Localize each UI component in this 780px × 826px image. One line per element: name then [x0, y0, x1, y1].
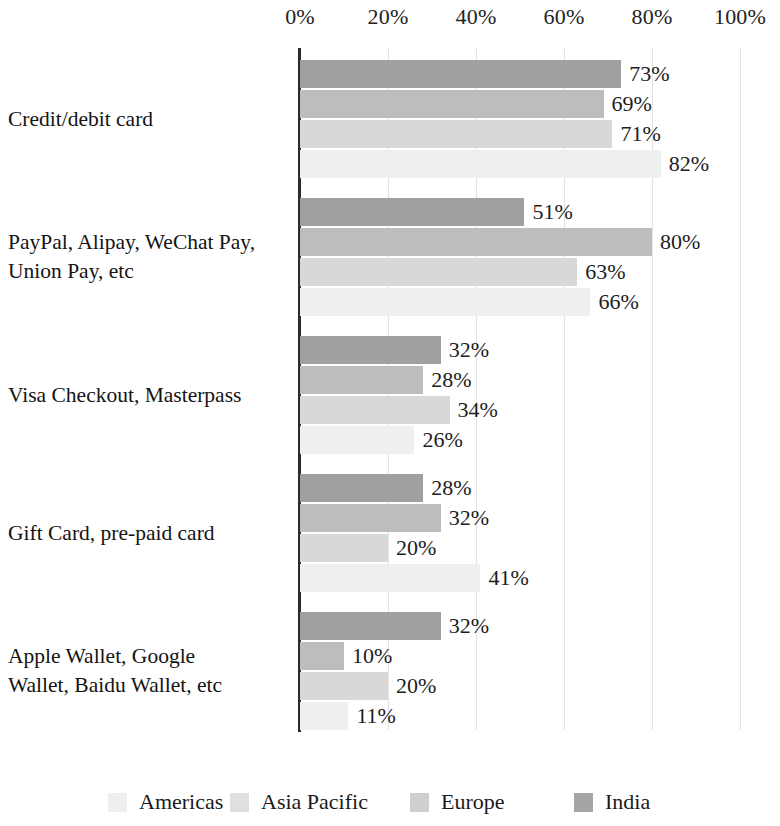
bar-asia-pacific-2	[300, 396, 450, 424]
legend-swatch-icon	[230, 793, 249, 812]
bar-americas-1	[300, 288, 590, 316]
category-label-line: Credit/debit card	[8, 105, 290, 134]
x-tick-100: 100%	[714, 4, 766, 30]
bar-value-label: 28%	[423, 474, 471, 502]
bar-europe-0	[300, 90, 604, 118]
category-label-line: Visa Checkout, Masterpass	[8, 381, 290, 410]
legend-item-americas[interactable]: Americas	[108, 786, 223, 818]
bar-value-label: 10%	[344, 642, 392, 670]
x-tick-80: 80%	[632, 4, 673, 30]
x-tick-0: 0%	[285, 4, 315, 30]
bar-value-label: 66%	[590, 288, 638, 316]
category-label-4: Apple Wallet, GoogleWallet, Baidu Wallet…	[8, 642, 290, 700]
legend-item-europe[interactable]: Europe	[410, 786, 505, 818]
gridline-100	[740, 48, 741, 730]
bar-india-4	[300, 612, 441, 640]
category-label-line: Apple Wallet, Google	[8, 642, 290, 671]
category-label-0: Credit/debit card	[8, 105, 290, 134]
bar-europe-3	[300, 504, 441, 532]
chart-legend: AmericasAsia PacificEuropeIndia	[0, 786, 780, 826]
bar-value-label: 82%	[661, 150, 709, 178]
bar-value-label: 63%	[577, 258, 625, 286]
category-label-line: PayPal, Alipay, WeChat Pay,	[8, 228, 290, 257]
legend-label: Americas	[139, 787, 223, 817]
bar-asia-pacific-4	[300, 672, 388, 700]
bar-value-label: 73%	[621, 60, 669, 88]
grouped-bar-chart: 0%20%40%60%80%100% Credit/debit cardPayP…	[0, 0, 780, 826]
bar-asia-pacific-3	[300, 534, 388, 562]
bar-value-label: 51%	[524, 198, 572, 226]
bar-value-label: 71%	[612, 120, 660, 148]
legend-swatch-icon	[410, 793, 429, 812]
bar-value-label: 20%	[388, 672, 436, 700]
category-label-2: Visa Checkout, Masterpass	[8, 381, 290, 410]
legend-swatch-icon	[108, 793, 127, 812]
legend-swatch-icon	[574, 793, 593, 812]
x-tick-40: 40%	[456, 4, 497, 30]
bar-americas-2	[300, 426, 414, 454]
bar-value-label: 32%	[441, 612, 489, 640]
bar-americas-3	[300, 564, 480, 592]
bar-asia-pacific-1	[300, 258, 577, 286]
bar-europe-4	[300, 642, 344, 670]
legend-label: Europe	[441, 787, 505, 817]
bar-india-2	[300, 336, 441, 364]
category-label-line: Gift Card, pre-paid card	[8, 519, 290, 548]
bar-india-3	[300, 474, 423, 502]
legend-label: India	[605, 787, 650, 817]
bar-india-0	[300, 60, 621, 88]
bar-value-label: 26%	[414, 426, 462, 454]
bar-value-label: 20%	[388, 534, 436, 562]
bar-europe-2	[300, 366, 423, 394]
bar-asia-pacific-0	[300, 120, 612, 148]
bar-americas-4	[300, 702, 348, 730]
category-label-line: Union Pay, etc	[8, 257, 290, 286]
category-label-3: Gift Card, pre-paid card	[8, 519, 290, 548]
bar-value-label: 28%	[423, 366, 471, 394]
bar-value-label: 34%	[450, 396, 498, 424]
x-tick-20: 20%	[368, 4, 409, 30]
bar-value-label: 69%	[604, 90, 652, 118]
category-label-1: PayPal, Alipay, WeChat Pay,Union Pay, et…	[8, 228, 290, 286]
category-label-line: Wallet, Baidu Wallet, etc	[8, 671, 290, 700]
legend-item-asia-pacific[interactable]: Asia Pacific	[230, 786, 368, 818]
bar-india-1	[300, 198, 524, 226]
x-tick-60: 60%	[544, 4, 585, 30]
bar-value-label: 32%	[441, 336, 489, 364]
legend-item-india[interactable]: India	[574, 786, 650, 818]
bar-value-label: 41%	[480, 564, 528, 592]
bar-americas-0	[300, 150, 661, 178]
bar-value-label: 11%	[348, 702, 396, 730]
legend-label: Asia Pacific	[261, 787, 368, 817]
bar-value-label: 80%	[652, 228, 700, 256]
bar-europe-1	[300, 228, 652, 256]
bar-value-label: 32%	[441, 504, 489, 532]
